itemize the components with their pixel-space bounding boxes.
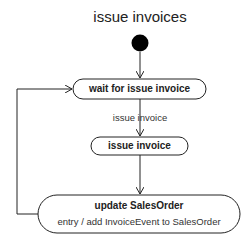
state-label: wait for issue invoice xyxy=(73,83,206,94)
initial-node xyxy=(132,35,149,52)
diagram-title: issue invoices xyxy=(0,8,252,25)
state-label: update SalesOrder xyxy=(38,200,240,211)
transition-label: issue invoice xyxy=(100,112,180,123)
entry-action: entry / add InvoiceEvent to SalesOrder xyxy=(38,216,240,227)
state-label: issue invoice xyxy=(91,140,188,151)
